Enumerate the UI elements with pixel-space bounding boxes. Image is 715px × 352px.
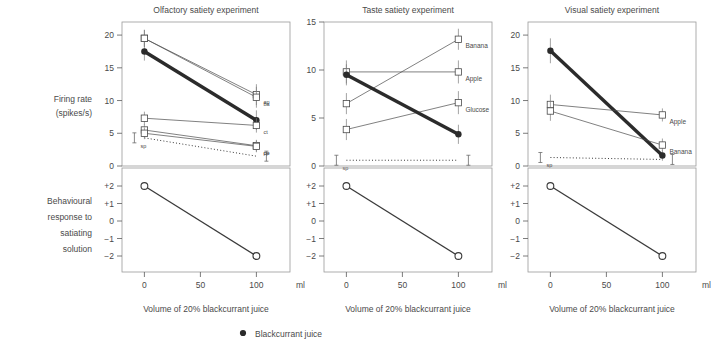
series-label-cp: cp — [263, 150, 269, 156]
behaviour-y-tick-label: +2 — [104, 181, 114, 191]
series-label-ct: ct — [263, 129, 268, 135]
spontaneous-errorbar — [670, 154, 674, 164]
behaviour-line — [346, 186, 458, 256]
y-tick-label: 5 — [311, 113, 316, 123]
behaviour-y-tick-label: −1 — [306, 234, 316, 244]
x-tick-label: 100 — [249, 280, 263, 290]
series-label-apple: Apple — [465, 75, 482, 83]
data-point-blackcurrant — [455, 131, 461, 137]
behaviour-data-point — [343, 183, 350, 190]
data-point-glucose — [455, 99, 461, 105]
data-point-blackcurrant — [659, 152, 665, 158]
behaviour-y-tick-label: 0 — [311, 216, 316, 226]
series-line-banana — [550, 111, 662, 145]
behaviour-y-tick-label: −1 — [510, 234, 520, 244]
legend-label: Blackcurrant juice — [255, 329, 322, 339]
chart-olfactory: Olfactory satiety experiment05101520spap… — [94, 0, 309, 352]
chart-taste: Taste satiety experiment051015spBananaAp… — [296, 0, 511, 352]
y-tick-label: 10 — [511, 96, 521, 106]
data-point-banana — [343, 100, 349, 106]
y-tick-label: 5 — [515, 128, 520, 138]
behaviour-label-line1: Behavioural — [47, 196, 92, 206]
data-point-banana — [455, 36, 461, 42]
data-point-apple — [455, 69, 461, 75]
data-point-banana — [659, 142, 665, 148]
data-point-apple — [659, 112, 665, 118]
series-label-ba: ba — [263, 101, 270, 107]
data-point-ba — [253, 94, 259, 100]
behaviour-data-point — [455, 253, 462, 260]
behaviour-y-tick-label: −2 — [510, 251, 520, 261]
series-label-banana: Banana — [669, 148, 692, 155]
behaviour-data-point — [141, 183, 148, 190]
y-tick-label: 10 — [105, 96, 115, 106]
y-tick-label: 20 — [511, 30, 521, 40]
legend: Blackcurrant juice — [235, 320, 535, 350]
behaviour-y-tick-label: 0 — [515, 216, 520, 226]
spontaneous-errorbar — [466, 155, 470, 165]
y-tick-label: 10 — [307, 65, 317, 75]
axis-label-block: Firing rate (spikes/s) Behavioural respo… — [0, 0, 100, 352]
behaviour-y-tick-label: +1 — [306, 199, 316, 209]
x-tick-label: 50 — [602, 280, 612, 290]
series-label-glucose: Glucose — [465, 106, 489, 113]
y-tick-label: 15 — [307, 17, 317, 27]
x-axis-label: Volume of 20% blackcurrant juice — [345, 304, 471, 314]
y-tick-label: 15 — [105, 63, 115, 73]
behaviour-y-tick-label: +2 — [510, 181, 520, 191]
panel-taste: Taste satiety experiment051015spBananaAp… — [296, 0, 511, 352]
data-point-cp — [141, 130, 147, 136]
y-tick-label: 0 — [515, 161, 520, 171]
data-point-blackcurrant — [547, 48, 553, 54]
data-point-ct — [253, 122, 259, 128]
x-tick-label: 100 — [451, 280, 465, 290]
data-point-ct — [141, 115, 147, 121]
behaviour-label-line2: response to — [48, 212, 93, 222]
plot-frame — [122, 22, 290, 166]
firing-rate-label-line1: Firing rate — [54, 94, 93, 104]
series-line-blackcurrant — [144, 51, 256, 120]
x-tick-label: 0 — [344, 280, 349, 290]
data-point-blackcurrant — [141, 48, 147, 54]
behaviour-label-line4: solution — [63, 244, 93, 254]
behaviour-data-point — [659, 253, 666, 260]
behaviour-y-tick-label: −1 — [104, 234, 114, 244]
behaviour-y-tick-label: +1 — [510, 199, 520, 209]
series-label-banana: Banana — [465, 42, 488, 49]
plot-frame — [528, 22, 696, 166]
x-tick-label: 50 — [196, 280, 206, 290]
y-tick-label: 5 — [109, 128, 114, 138]
behaviour-y-tick-label: +2 — [306, 181, 316, 191]
behaviour-data-point — [547, 183, 554, 190]
x-tick-label: 0 — [548, 280, 553, 290]
panel-title: Olfactory satiety experiment — [153, 5, 259, 15]
behaviour-line — [144, 186, 256, 256]
series-line-ct — [144, 118, 256, 125]
data-point-banana — [547, 108, 553, 114]
spontaneous-errorbar — [334, 155, 338, 165]
series-label-apple: Apple — [669, 118, 686, 126]
x-axis-label: Volume of 20% blackcurrant juice — [143, 304, 269, 314]
data-point-cp — [253, 143, 259, 149]
spontaneous-label: sp — [546, 162, 552, 168]
y-tick-label: 0 — [311, 161, 316, 171]
behaviour-y-tick-label: −2 — [104, 251, 114, 261]
x-unit-label: ml — [702, 280, 711, 290]
spontaneous-errorbar — [538, 152, 542, 162]
chart-visual: Visual satiety experiment05101520spApple… — [500, 0, 715, 352]
behaviour-label-line3: satiating — [60, 228, 92, 238]
spontaneous-rate-line — [550, 157, 662, 159]
series-line-pe — [144, 130, 256, 146]
x-tick-label: 100 — [655, 280, 669, 290]
data-point-blackcurrant — [343, 72, 349, 78]
series-line-banana — [346, 39, 458, 103]
behaviour-y-tick-label: +1 — [104, 199, 114, 209]
panel-title: Taste satiety experiment — [362, 5, 454, 15]
y-tick-label: 15 — [511, 63, 521, 73]
spontaneous-errorbar — [132, 133, 136, 143]
x-tick-label: 0 — [142, 280, 147, 290]
series-line-apple — [550, 104, 662, 114]
series-line-ba — [144, 38, 256, 97]
data-point-ba — [141, 35, 147, 41]
